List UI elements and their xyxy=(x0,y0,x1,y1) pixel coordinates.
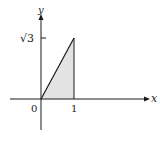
y-tick-label: √3 xyxy=(20,32,34,45)
y-axis-label: y xyxy=(37,4,44,15)
x-axis-arrow-icon xyxy=(144,97,150,102)
diagram-canvas: y x 0 1 √3 xyxy=(0,0,160,142)
x-axis-label: x xyxy=(151,92,158,105)
x-tick-label: 1 xyxy=(71,103,77,114)
origin-label: 0 xyxy=(31,103,37,114)
